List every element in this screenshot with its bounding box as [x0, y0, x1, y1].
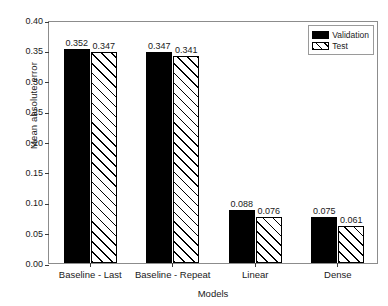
- bar-value-label: 0.061: [340, 215, 363, 225]
- y-tick-label: 0.30: [25, 77, 43, 87]
- bar-value-label: 0.088: [230, 199, 253, 209]
- y-tick-label: 0.10: [25, 198, 43, 208]
- bar-test-baseline-repeat: 0.341: [173, 56, 199, 263]
- y-tick-label: 0.25: [25, 107, 43, 117]
- bar-value-label: 0.075: [313, 206, 336, 216]
- bar-value-label: 0.076: [257, 206, 280, 216]
- bar-test-baseline-last: 0.347: [91, 52, 117, 263]
- y-tick-label: 0.40: [25, 16, 43, 26]
- legend-swatch-test: [312, 42, 329, 50]
- x-tick-mark: [255, 263, 256, 267]
- y-tick-mark: [45, 52, 49, 53]
- y-tick-label: 0.05: [25, 229, 43, 239]
- y-tick-mark: [45, 82, 49, 83]
- figure-bar-chart: Mean absolute error 0.000.050.100.150.20…: [0, 0, 388, 306]
- legend-item-validation: Validation: [312, 29, 369, 40]
- y-tick-mark: [45, 173, 49, 174]
- y-tick-label: 0.35: [25, 46, 43, 56]
- x-tick-label: Linear: [242, 269, 268, 280]
- bar-value-label: 0.347: [148, 41, 171, 51]
- x-tick-label: Baseline - Last: [59, 269, 122, 280]
- y-tick-mark: [45, 113, 49, 114]
- legend-item-test: Test: [312, 40, 369, 51]
- x-tick-mark: [337, 263, 338, 267]
- bar-value-label: 0.347: [92, 41, 115, 51]
- bar-value-label: 0.341: [175, 45, 198, 55]
- x-tick-label: Dense: [324, 269, 351, 280]
- y-tick-mark: [45, 265, 49, 266]
- bar-test-dense: 0.061: [338, 226, 364, 263]
- legend-label-test: Test: [332, 41, 348, 51]
- legend-swatch-validation: [312, 31, 329, 39]
- y-tick-label: 0.20: [25, 138, 43, 148]
- x-tick-mark: [172, 263, 173, 267]
- legend-label-validation: Validation: [332, 30, 369, 40]
- y-tick-mark: [45, 234, 49, 235]
- bar-validation-baseline-last: 0.352: [64, 49, 90, 263]
- bar-validation-linear: 0.088: [229, 210, 255, 263]
- x-tick-mark: [90, 263, 91, 267]
- bar-validation-dense: 0.075: [311, 217, 337, 263]
- chart-legend: Validation Test: [308, 25, 374, 55]
- bar-validation-baseline-repeat: 0.347: [146, 52, 172, 263]
- caption-remnant: [0, 298, 388, 306]
- y-tick-mark: [45, 143, 49, 144]
- bar-value-label: 0.352: [65, 38, 88, 48]
- bar-test-linear: 0.076: [256, 217, 282, 263]
- y-tick-mark: [45, 204, 49, 205]
- plot-area: 0.000.050.100.150.200.250.300.350.40 Bas…: [48, 21, 378, 264]
- y-tick-label: 0.15: [25, 168, 43, 178]
- y-tick-mark: [45, 22, 49, 23]
- x-tick-label: Baseline - Repeat: [135, 269, 211, 280]
- y-tick-label: 0.00: [25, 259, 43, 269]
